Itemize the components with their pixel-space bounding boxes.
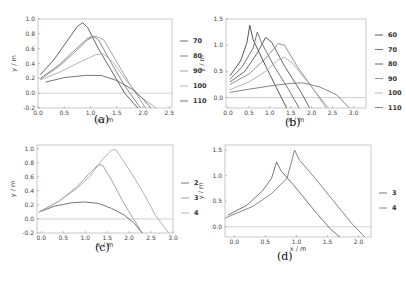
- series-line-110: [46, 75, 151, 108]
- series-line-4: [225, 150, 365, 237]
- caption-b: (b): [285, 116, 301, 129]
- legend-label: 4: [194, 209, 199, 217]
- legend-label: 3: [392, 189, 397, 197]
- plot-frame: [226, 19, 366, 108]
- series-group: [39, 150, 168, 233]
- y-tick-label: 0.4: [25, 60, 35, 67]
- x-tick-label: 1.5: [112, 109, 122, 116]
- x-tick-label: 0.5: [261, 238, 271, 245]
- subplot-c: 0.00.51.01.52.02.53.0-0.20.00.20.40.60.8…: [9, 145, 199, 249]
- y-tick-label: 0.6: [25, 45, 35, 52]
- x-tick-label: 1.5: [323, 238, 333, 245]
- plot-frame: [38, 19, 172, 108]
- series-group: [230, 25, 349, 108]
- series-line-90: [230, 44, 326, 108]
- x-tick-label: 0.5: [244, 109, 254, 116]
- legend-label: 80: [388, 60, 398, 68]
- x-tick-label: 1.0: [292, 238, 302, 245]
- legend-label: 100: [388, 89, 402, 97]
- y-tick-label: 0.0: [24, 215, 34, 222]
- legend-label: 110: [388, 104, 402, 112]
- y-tick-label: -0.2: [23, 104, 35, 111]
- legend-label: 90: [388, 75, 398, 83]
- series-line-2: [39, 202, 142, 233]
- series-line-70: [230, 32, 299, 108]
- y-tick-label: 0.5: [212, 197, 222, 204]
- x-tick-label: 2.0: [124, 234, 134, 241]
- y-axis-label: y / m: [10, 55, 18, 72]
- subplot-d: 0.00.51.01.52.00.00.51.01.5x / my / m34: [197, 145, 397, 253]
- series-line-100: [41, 54, 157, 108]
- y-tick-label: 0.4: [24, 187, 34, 194]
- caption-c: (c): [95, 241, 110, 254]
- y-axis-label: y / m: [9, 181, 17, 198]
- y-tick-label: 1.5: [213, 15, 223, 22]
- x-tick-label: 3.0: [349, 109, 359, 116]
- y-tick-label: 1.0: [213, 41, 223, 48]
- y-tick-label: 0.0: [212, 223, 222, 230]
- x-tick-label: 0.0: [37, 234, 47, 241]
- x-tick-label: 1.0: [80, 234, 90, 241]
- series-line-100: [230, 57, 328, 108]
- series-group: [41, 23, 157, 108]
- y-tick-label: 0.2: [25, 74, 35, 81]
- subplot-a: 0.00.51.01.52.02.5-0.20.00.20.40.60.81.0…: [10, 15, 207, 124]
- x-tick-label: 2.0: [138, 109, 148, 116]
- y-tick-label: 1.0: [212, 172, 222, 179]
- y-axis-label: y / m: [198, 55, 206, 72]
- y-tick-label: 1.0: [25, 15, 35, 22]
- y-tick-label: 0.6: [24, 173, 34, 180]
- y-tick-label: 0.5: [213, 67, 223, 74]
- x-tick-label: 0.5: [59, 234, 69, 241]
- series-line-60: [230, 25, 286, 108]
- x-tick-label: 0.5: [60, 109, 70, 116]
- y-tick-label: 0.0: [25, 89, 35, 96]
- y-tick-label: -0.2: [22, 229, 34, 236]
- x-tick-label: 1.5: [102, 234, 112, 241]
- legend-label: 110: [193, 97, 207, 105]
- x-tick-label: 3.0: [168, 234, 178, 241]
- caption-d: (d): [277, 250, 293, 263]
- legend-label: 70: [193, 37, 203, 45]
- x-tick-label: 1.0: [265, 109, 275, 116]
- series-line-4: [39, 150, 168, 233]
- y-tick-label: 0.0: [213, 94, 223, 101]
- y-tick-label: 1.5: [212, 146, 222, 153]
- x-tick-label: 0.0: [223, 109, 233, 116]
- x-tick-label: 0.0: [230, 238, 240, 245]
- series-line-80: [41, 36, 141, 108]
- x-tick-label: 2.0: [354, 238, 364, 245]
- legend-label: 70: [388, 46, 398, 54]
- legend-label: 4: [392, 204, 397, 212]
- series-line-3: [228, 162, 340, 237]
- caption-a: (a): [94, 113, 109, 126]
- x-tick-label: 1.5: [286, 109, 296, 116]
- legend-label: 60: [388, 31, 398, 39]
- series-line-110: [230, 83, 349, 108]
- y-tick-label: 0.8: [24, 159, 34, 166]
- series-group: [225, 150, 365, 237]
- figure-canvas: 0.00.51.01.52.02.5-0.20.00.20.40.60.81.0…: [0, 0, 406, 281]
- y-tick-label: 0.2: [24, 201, 34, 208]
- y-tick-label: 0.8: [25, 30, 35, 37]
- x-tick-label: 2.5: [328, 109, 338, 116]
- subplot-b: 0.00.51.01.52.02.53.00.00.51.01.5x / my …: [198, 15, 402, 124]
- y-axis-label: y / m: [197, 183, 205, 200]
- y-tick-label: 1.0: [24, 145, 34, 152]
- x-tick-label: 2.0: [307, 109, 317, 116]
- x-tick-label: 2.5: [146, 234, 156, 241]
- x-tick-label: 2.5: [165, 109, 175, 116]
- series-line-70: [41, 23, 138, 108]
- plot-frame: [37, 145, 173, 233]
- legend-label: 100: [193, 82, 207, 90]
- series-line-90: [41, 36, 146, 108]
